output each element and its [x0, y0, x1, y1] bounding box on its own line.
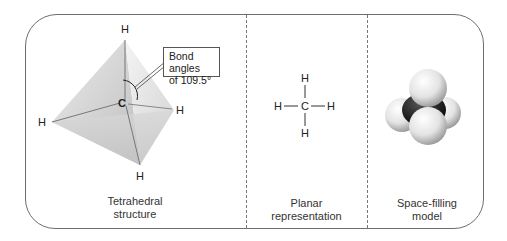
planar-formula: H C H H H [274, 72, 335, 139]
space-filling-label: Space-filling model [372, 197, 482, 223]
space-filling-label-line2: model [372, 210, 482, 223]
planar-c-center: C [301, 100, 309, 112]
planar-h-bottom: H [301, 127, 309, 139]
planar-h-top: H [301, 72, 309, 84]
tetrahedral-label: Tetrahedral structure [80, 195, 190, 221]
atom-h-bottom: H [136, 170, 144, 182]
atom-h-left: H [38, 116, 46, 128]
tetrahedral-label-line1: Tetrahedral [80, 195, 190, 208]
planar-h-left: H [274, 100, 282, 112]
planar-label-line1: Planar [250, 197, 363, 210]
space-filling-model [385, 69, 461, 145]
callout-line2: of 109.5° [169, 74, 219, 86]
atom-c-center: C [118, 97, 126, 109]
bond-angle-callout: Bond angles of 109.5° [163, 47, 220, 77]
planar-label: Planar representation [250, 197, 363, 223]
planar-h-right: H [327, 100, 335, 112]
callout-line1: Bond angles [169, 50, 219, 74]
tetrahedral-label-line2: structure [80, 208, 190, 221]
space-filling-label-line1: Space-filling [372, 197, 482, 210]
planar-label-line2: representation [250, 210, 363, 223]
atom-h-top: H [121, 23, 129, 35]
atom-h-right: H [176, 104, 184, 116]
